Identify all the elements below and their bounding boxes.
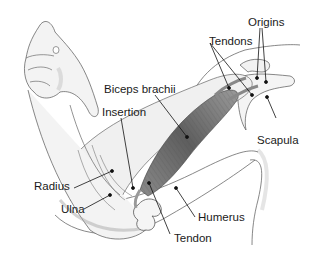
- label-scapula: Scapula: [257, 135, 299, 147]
- label-insertion: Insertion: [102, 107, 146, 119]
- label-radius: Radius: [34, 181, 70, 193]
- label-biceps-brachii: Biceps brachii: [104, 84, 176, 96]
- label-origins: Origins: [248, 17, 284, 29]
- label-tendon: Tendon: [174, 233, 212, 245]
- label-tendons: Tendons: [209, 36, 252, 48]
- label-ulna: Ulna: [61, 204, 85, 216]
- biceps-anatomy-diagram: Tendons Origins Biceps brachii Insertion…: [0, 0, 315, 258]
- label-humerus: Humerus: [198, 212, 245, 224]
- arm-illustration: [0, 0, 315, 258]
